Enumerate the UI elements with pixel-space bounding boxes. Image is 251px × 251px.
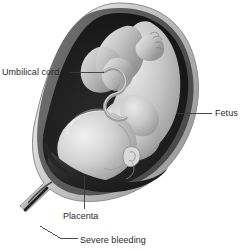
leader-line-severe-bleeding: [40, 226, 78, 238]
placenta-previa-figure: Umbilical cord Fetus Placenta Severe ble…: [0, 0, 251, 251]
label-severe-bleeding: Severe bleeding: [80, 235, 146, 245]
anatomical-illustration: [0, 0, 251, 251]
cervix-canal: [21, 182, 52, 212]
fetal-ear: [123, 147, 140, 167]
label-umbilical-cord: Umbilical cord: [2, 67, 59, 77]
label-placenta: Placenta: [63, 211, 98, 221]
label-fetus: Fetus: [215, 108, 238, 118]
